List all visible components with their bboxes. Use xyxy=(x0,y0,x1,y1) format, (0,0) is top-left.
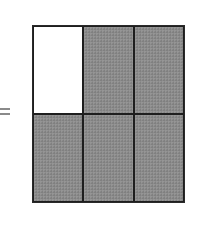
shaded-cell xyxy=(134,26,184,114)
equals-bar-top xyxy=(0,108,10,110)
shaded-cell xyxy=(83,114,133,202)
shaded-cell xyxy=(134,114,184,202)
equals-bar-bottom xyxy=(0,113,10,115)
unshaded-cell xyxy=(33,26,83,114)
shaded-cell xyxy=(83,26,133,114)
shaded-cell xyxy=(33,114,83,202)
fraction-grid xyxy=(32,25,185,203)
equals-sign xyxy=(0,108,10,116)
